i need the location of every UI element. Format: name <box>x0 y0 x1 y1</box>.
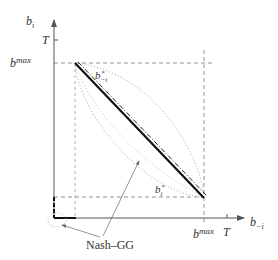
x-axis-label: b−i <box>250 215 264 231</box>
nash-gg-origin-circle <box>48 213 66 227</box>
equilibrium-line-solid <box>75 63 204 198</box>
nash-gg-arrow-to-curve <box>103 161 139 236</box>
x-tick-T-label: T <box>223 225 231 239</box>
y-tick-bmax-label: bmax <box>10 55 31 70</box>
x-tick-bmax-label: bmax <box>193 226 214 241</box>
nash-gg-arrow-to-origin <box>62 225 100 237</box>
y-tick-T-label: T <box>42 33 50 47</box>
y-axis-label: bi <box>26 14 34 30</box>
nash-gg-label: Nash–GG <box>86 238 134 252</box>
equilibrium-line-dashdot <box>78 62 207 196</box>
nash-equilibrium-diagram: bi T bmax bmax T b−i b*−i b*i Nash–GG <box>0 0 278 260</box>
lower-curve-label: b*i <box>155 183 165 198</box>
